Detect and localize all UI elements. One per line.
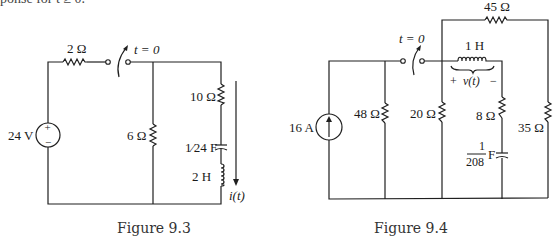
resistor-20-ohm-label: 20 Ω (410, 106, 436, 121)
inductor-2h-label: 2 H (192, 169, 211, 184)
capacitor-numerator: 1 (479, 139, 485, 153)
resistor-10-ohm-label: 10 Ω (190, 89, 216, 104)
switch-icon (401, 45, 425, 75)
capacitor-icon (496, 153, 508, 158)
current-arrow-icon (233, 81, 239, 186)
resistor-8-ohm-label: 8 Ω (476, 108, 495, 123)
figure-9-3-circuit: 2 Ω t = 0 + − 24 V 6 Ω 10 Ω 1⁄24 F 2 H (8, 41, 245, 236)
resistor-20-ohm (439, 102, 445, 122)
resistor-48-ohm-label: 48 Ω (354, 106, 380, 121)
resistor-2-ohm-label: 2 Ω (67, 41, 86, 56)
resistor-45-ohm (485, 17, 509, 23)
inductor-1h-icon (458, 57, 490, 61)
resistor-2-ohm (63, 59, 87, 65)
source-minus-sign: − (45, 136, 51, 148)
resistor-6-ohm (150, 124, 156, 146)
current-source-icon (316, 114, 342, 140)
resistor-10-ohm (218, 84, 224, 105)
voltage-plus-sign: + (450, 74, 457, 88)
resistor-6-ohm-label: 6 Ω (127, 128, 146, 143)
brace-icon (451, 66, 494, 73)
source-plus-sign: + (45, 121, 51, 133)
figure-9-3-caption: Figure 9.3 (117, 220, 191, 236)
capacitor-unit: F (488, 147, 495, 162)
capacitor-label: 1⁄24 F (185, 140, 217, 155)
resistor-45-ohm-label: 45 Ω (484, 0, 510, 14)
voltage-minus-sign: − (490, 74, 497, 88)
current-source-label: 16 A (289, 120, 315, 135)
capacitor-denominator: 208 (466, 155, 484, 169)
figure-9-4-caption: Figure 9.4 (374, 220, 448, 236)
resistor-8-ohm (499, 97, 505, 118)
inductor-1h-label: 1 H (465, 38, 484, 53)
inductor-2h-icon (221, 164, 224, 186)
switch-time-label: t = 0 (399, 31, 425, 46)
resistor-48-ohm (382, 103, 388, 123)
switch-time-label: t = 0 (134, 42, 160, 57)
voltage-label: v(t) (463, 74, 480, 88)
current-label: i(t) (229, 188, 245, 203)
resistor-35-ohm (545, 102, 551, 122)
resistor-35-ohm-label: 35 Ω (518, 120, 544, 135)
switch-icon (106, 45, 131, 77)
source-voltage-label: 24 V (8, 128, 34, 143)
figure-9-4-circuit: 16 A 48 Ω t = 0 20 Ω 45 Ω 1 H + v(t) − 8… (289, 0, 551, 236)
